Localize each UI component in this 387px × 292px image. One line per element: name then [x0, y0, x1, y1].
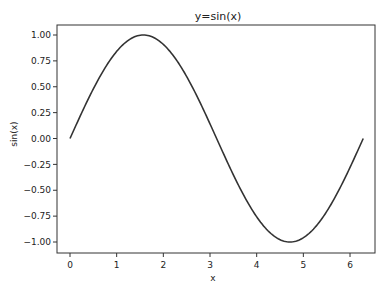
y-tick-label: −0.25 [23, 160, 51, 170]
x-axis-label: x [210, 273, 216, 283]
x-tick-label: 1 [114, 260, 120, 270]
y-axis-label: sin(x) [9, 121, 19, 146]
y-tick-label: −1.00 [23, 237, 51, 247]
y-tick-label: 1.00 [31, 30, 51, 40]
y-tick-label: −0.50 [23, 185, 51, 195]
x-tick-label: 3 [207, 260, 213, 270]
y-tick-label: 0.50 [31, 82, 51, 92]
chart-title: y=sin(x) [195, 10, 242, 23]
x-tick-label: 6 [347, 260, 353, 270]
x-tick-label: 4 [254, 260, 260, 270]
x-tick-label: 0 [67, 260, 73, 270]
chart-figure: y=sin(x) 0123456 1.000.750.500.250.00−0.… [0, 0, 387, 292]
y-tick-label: −0.75 [23, 211, 51, 221]
y-axis-ticks: 1.000.750.500.250.00−0.25−0.50−0.75−1.00 [23, 30, 57, 247]
y-tick-label: 0.00 [31, 134, 51, 144]
x-axis-ticks: 0123456 [67, 253, 353, 270]
y-tick-label: 0.75 [31, 56, 51, 66]
plot-area [57, 25, 375, 253]
y-tick-label: 0.25 [31, 108, 51, 118]
x-tick-label: 2 [160, 260, 166, 270]
x-tick-label: 5 [300, 260, 306, 270]
